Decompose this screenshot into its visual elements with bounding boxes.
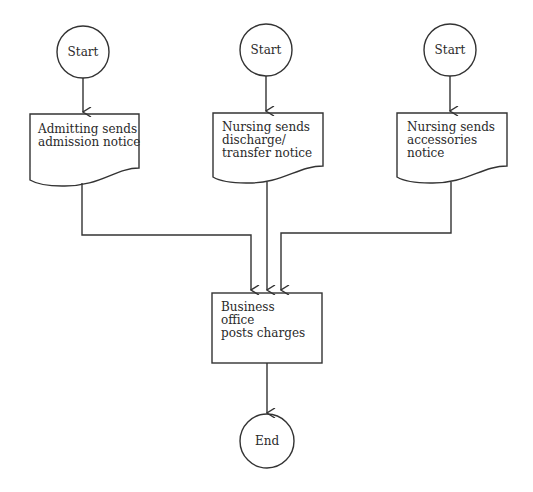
document-label-1: Admitting sends admission notice: [38, 123, 140, 149]
flowchart-canvas: [0, 0, 533, 492]
process-label-line-3: posts charges: [221, 327, 305, 340]
process-label: Business office posts charges: [221, 301, 305, 340]
document-label-3: Nursing sends accessories notice: [407, 121, 495, 160]
connector-doc1-process: [82, 183, 251, 290]
end-label: End: [241, 435, 293, 448]
start-label-3: Start: [424, 44, 476, 57]
connector-doc3-process: [281, 182, 451, 290]
document-label-2-line-3: transfer notice: [222, 147, 312, 160]
start-label-1: Start: [57, 46, 109, 59]
start-label-2: Start: [240, 44, 292, 57]
document-label-3-line-3: notice: [407, 147, 495, 160]
document-label-2: Nursing sends discharge/ transfer notice: [222, 121, 312, 160]
document-label-1-line-2: admission notice: [38, 136, 140, 149]
